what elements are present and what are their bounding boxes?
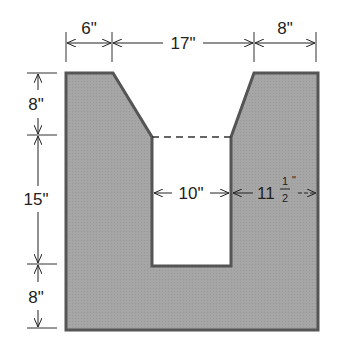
dim-top-middle-label: 17" xyxy=(171,34,196,53)
dim-top-right-label: 8" xyxy=(277,19,293,38)
dim-right-wall-denominator: 2 xyxy=(282,192,288,204)
dim-left-top-label: 8" xyxy=(28,95,44,114)
dim-right-wall-unit: " xyxy=(292,174,296,186)
dim-inner-width-label: 10" xyxy=(179,184,204,203)
diagram-canvas: 6" 17" 8" 8" 15" 8" 10" 11 1 2 " xyxy=(0,0,338,353)
dim-left-middle-label: 15" xyxy=(24,190,49,209)
dim-left-bottom-label: 8" xyxy=(28,288,44,307)
dim-right-wall-whole: 11 xyxy=(257,184,275,203)
dim-right-wall-numerator: 1 xyxy=(282,175,288,187)
dim-top-left-label: 6" xyxy=(81,19,97,38)
